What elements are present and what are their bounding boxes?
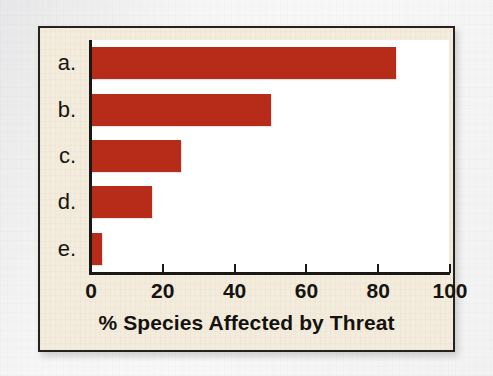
bar bbox=[91, 94, 271, 126]
x-tick-mark bbox=[234, 264, 236, 273]
bar-chart: a.b.c.d.e. 020406080100 % Species Affect… bbox=[40, 28, 453, 350]
x-axis-line bbox=[89, 272, 450, 275]
category-label: c. bbox=[59, 144, 76, 168]
bar-row: a. bbox=[91, 47, 450, 79]
x-tick-label: 0 bbox=[61, 278, 121, 304]
x-tick-label: 80 bbox=[348, 278, 408, 304]
category-label: d. bbox=[58, 190, 76, 214]
y-axis-line bbox=[89, 40, 92, 274]
x-axis-title: % Species Affected by Threat bbox=[40, 311, 453, 335]
category-label: b. bbox=[58, 98, 76, 122]
bar-row: c. bbox=[91, 140, 450, 172]
figure-frame: a.b.c.d.e. 020406080100 % Species Affect… bbox=[38, 26, 455, 352]
bar bbox=[91, 233, 102, 265]
x-tick-mark bbox=[90, 264, 92, 273]
bar bbox=[91, 186, 152, 218]
x-tick-label: 100 bbox=[420, 278, 480, 304]
bar-row: e. bbox=[91, 233, 450, 265]
bar-row: b. bbox=[91, 94, 450, 126]
category-label: e. bbox=[58, 237, 76, 261]
category-label: a. bbox=[58, 51, 76, 75]
x-tick-mark bbox=[449, 264, 451, 273]
x-tick-label: 60 bbox=[276, 278, 336, 304]
x-tick-label: 40 bbox=[205, 278, 265, 304]
bar-row: d. bbox=[91, 186, 450, 218]
x-tick-mark bbox=[377, 264, 379, 273]
x-tick-mark bbox=[305, 264, 307, 273]
bar bbox=[91, 47, 396, 79]
x-tick-mark bbox=[162, 264, 164, 273]
x-tick-label: 20 bbox=[133, 278, 193, 304]
bar bbox=[91, 140, 181, 172]
